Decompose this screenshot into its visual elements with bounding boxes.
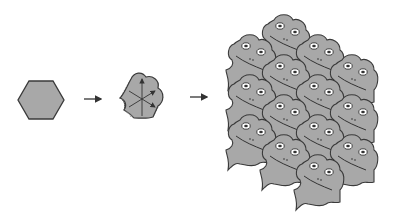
frog-tessellation — [226, 15, 378, 210]
hexagon-tile — [18, 81, 64, 119]
tessellation-diagram — [0, 0, 397, 217]
deformed-tile — [120, 73, 163, 118]
